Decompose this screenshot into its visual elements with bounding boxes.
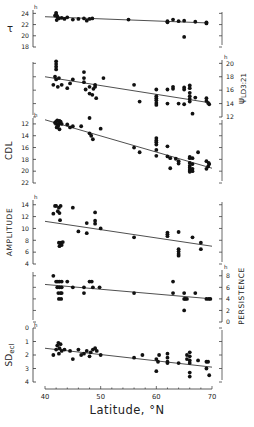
data-point xyxy=(154,154,158,158)
data-point xyxy=(90,280,94,284)
data-point xyxy=(154,148,158,152)
data-point xyxy=(53,14,57,18)
y-tick-label: 20 xyxy=(21,32,29,39)
data-point xyxy=(127,18,131,22)
y-tick-label: 14 xyxy=(21,201,29,208)
data-point xyxy=(85,349,89,353)
data-point xyxy=(154,88,158,92)
x-axis-label: Latitude, °N xyxy=(0,403,254,417)
data-point xyxy=(82,285,86,289)
data-point xyxy=(166,234,170,238)
y-tick-label: 3 xyxy=(25,365,29,372)
data-point xyxy=(68,349,72,353)
data-point xyxy=(166,102,170,106)
data-point xyxy=(166,361,170,365)
data-point xyxy=(71,78,75,82)
data-point xyxy=(188,86,192,90)
data-point xyxy=(177,254,181,258)
y-tick-label: 22 xyxy=(21,21,29,28)
data-point xyxy=(188,375,192,379)
data-point xyxy=(132,146,136,150)
data-point xyxy=(84,88,88,92)
data-point xyxy=(82,80,86,84)
data-point xyxy=(77,17,81,21)
data-point xyxy=(79,124,83,128)
data-point xyxy=(88,131,92,135)
data-point xyxy=(208,297,212,301)
data-point xyxy=(51,83,55,87)
data-point xyxy=(182,19,186,23)
data-point xyxy=(63,348,67,352)
data-point xyxy=(91,137,95,141)
data-point xyxy=(102,76,106,80)
y-axis-title: ψLD3:21 xyxy=(236,73,248,104)
data-point xyxy=(85,221,89,225)
data-point xyxy=(182,102,186,106)
data-point xyxy=(171,291,175,295)
data-point xyxy=(65,280,69,284)
data-point xyxy=(93,211,97,215)
data-point xyxy=(196,150,200,154)
data-point xyxy=(168,156,172,160)
data-point xyxy=(57,352,61,356)
data-point xyxy=(60,122,64,126)
data-point xyxy=(206,360,210,364)
data-point xyxy=(156,360,160,364)
data-point xyxy=(171,18,175,22)
data-point xyxy=(191,169,195,173)
data-point xyxy=(177,162,181,166)
x-tick-label: 60 xyxy=(152,393,161,401)
y-tick-label: 18 xyxy=(226,73,234,80)
data-point xyxy=(58,211,62,215)
data-point xyxy=(77,348,81,352)
data-point xyxy=(205,367,209,371)
y-axis-title: PERSISTENCE xyxy=(237,267,246,325)
data-point xyxy=(188,361,192,365)
y-tick-label: 14 xyxy=(21,132,29,139)
data-point xyxy=(91,285,95,289)
y-tick-label: 20 xyxy=(21,167,29,174)
data-point xyxy=(57,76,61,80)
data-point xyxy=(59,342,63,346)
data-point xyxy=(82,76,86,80)
y-tick-label: 10 xyxy=(21,225,29,232)
data-point xyxy=(58,218,62,222)
y-tick-label: 18 xyxy=(21,43,29,50)
multi-panel-scatter: 24222018hτ2018161412hψLD3:21121416182022… xyxy=(0,0,254,427)
data-point xyxy=(188,91,192,95)
data-point xyxy=(182,291,186,295)
y-tick-label: 4 xyxy=(226,295,230,302)
y-tick-label: 2 xyxy=(226,307,230,314)
data-point xyxy=(141,353,145,357)
y-tick-label: 0 xyxy=(226,318,230,325)
data-point xyxy=(191,156,195,160)
data-point xyxy=(154,103,158,107)
data-point xyxy=(61,240,65,244)
y-axis-title: τ xyxy=(7,23,13,34)
data-point xyxy=(82,70,86,74)
data-point xyxy=(71,357,75,361)
data-point xyxy=(185,297,189,301)
data-point xyxy=(51,212,55,216)
data-point xyxy=(51,353,55,357)
data-point xyxy=(59,297,63,301)
y-tick-label: 4 xyxy=(25,260,29,267)
data-point xyxy=(90,17,94,21)
data-point xyxy=(58,127,62,131)
data-point xyxy=(171,280,175,284)
y-tick-label: 18 xyxy=(21,156,29,163)
y-unit-label: h xyxy=(34,322,38,328)
data-point xyxy=(182,35,186,39)
data-point xyxy=(94,96,98,100)
data-point xyxy=(85,231,89,235)
data-point xyxy=(193,20,197,24)
data-point xyxy=(90,93,94,97)
data-point xyxy=(54,67,58,71)
y-tick-label: 12 xyxy=(21,213,29,220)
data-point xyxy=(207,102,211,106)
data-point xyxy=(193,96,197,100)
y-unit-label: h xyxy=(34,194,38,200)
data-point xyxy=(191,112,195,116)
trend-line xyxy=(45,284,212,298)
data-point xyxy=(95,349,99,353)
